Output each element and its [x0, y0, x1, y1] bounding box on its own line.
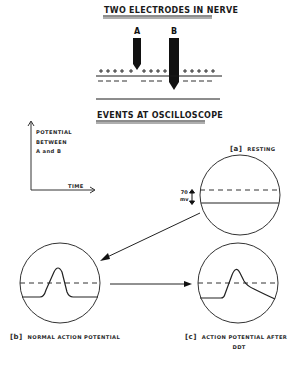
oscilloscope-c — [198, 243, 278, 323]
nerve-title: TWO ELECTRODES IN NERVE — [104, 6, 238, 15]
scale-label: 70 mv — [180, 189, 188, 203]
electrode-b-icon — [169, 38, 179, 90]
title-underline — [103, 16, 212, 18]
panel-c-text-line1: ACTION POTENTIAL AFTER — [202, 334, 288, 340]
oscilloscope-b — [20, 243, 100, 323]
axis-y-label: POTENTIAL BETWEEN A and B — [36, 128, 72, 157]
axis-y-label-line3: A and B — [36, 147, 72, 157]
scale-unit: mv — [180, 196, 188, 203]
axis-y-label-line1: POTENTIAL — [36, 128, 72, 138]
panel-b-text: NORMAL ACTION POTENTIAL — [28, 334, 121, 340]
panel-c-text-line2: DDT — [185, 343, 287, 353]
diagram-canvas — [0, 0, 294, 367]
panel-c-key: [c] — [185, 333, 197, 341]
axis-x-label: TIME — [68, 182, 84, 192]
panel-a-text: RESTING — [247, 146, 275, 152]
panel-a-key: [a] — [230, 145, 242, 153]
panel-a-caption: [a]RESTING — [230, 145, 275, 155]
scale-arrow-icon — [190, 190, 195, 205]
electrode-a-label: A — [134, 27, 140, 36]
electrode-b-label: B — [171, 27, 177, 36]
events-title: EVENTS AT OSCILLOSCOPE — [97, 111, 223, 120]
arrow-b-to-c-icon — [110, 281, 192, 287]
arrow-a-to-b-icon — [100, 213, 200, 261]
panel-b-key: [b] — [10, 333, 23, 341]
oscilloscope-a — [200, 155, 280, 235]
electrode-a-icon — [133, 38, 141, 70]
panel-c-caption: [c]ACTION POTENTIAL AFTER DDT — [185, 333, 287, 352]
events-title-underline — [96, 121, 205, 123]
plus-charges — [99, 69, 215, 73]
scale-value: 70 — [180, 189, 188, 196]
panel-b-caption: [b]NORMAL ACTION POTENTIAL — [10, 333, 120, 343]
axis-y-label-line2: BETWEEN — [36, 138, 72, 148]
